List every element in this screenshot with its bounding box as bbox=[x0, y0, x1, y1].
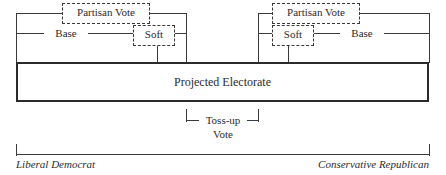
base-label-right: Base bbox=[340, 26, 384, 42]
projected-electorate-box: Projected Electorate bbox=[16, 62, 429, 102]
partisan-vote-label-left: Partisan Vote bbox=[62, 3, 150, 24]
projected-electorate-label: Projected Electorate bbox=[174, 75, 271, 90]
conservative-republican-pole-label: Conservative Republican bbox=[318, 159, 429, 170]
soft-label-left: Soft bbox=[133, 25, 175, 46]
partisan-vote-label-right: Partisan Vote bbox=[272, 3, 360, 24]
tossup-vote-label-line2: Vote bbox=[199, 128, 247, 140]
tossup-vote-label-line1: Toss-up bbox=[199, 114, 247, 128]
soft-label-right: Soft bbox=[272, 25, 314, 46]
liberal-democrat-pole-label: Liberal Democrat bbox=[16, 159, 95, 170]
ideological-spectrum-diagram: Partisan Vote Partisan Vote Base Soft So… bbox=[0, 0, 446, 175]
base-label-left: Base bbox=[44, 26, 88, 42]
